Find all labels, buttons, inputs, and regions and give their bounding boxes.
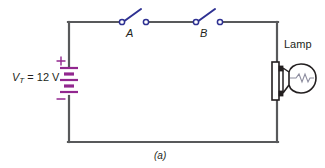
switch-b-blade bbox=[197, 9, 215, 22]
lamp-neck-lower bbox=[283, 85, 289, 93]
switch-a-terminal-left bbox=[119, 19, 124, 24]
switch-a-blade bbox=[123, 9, 141, 22]
lamp-symbol bbox=[272, 62, 316, 100]
lamp-bracket bbox=[272, 62, 279, 100]
switch-b-terminal-right bbox=[217, 19, 222, 24]
figure-caption: (a) bbox=[154, 151, 166, 161]
source-voltage-value: = 12 V bbox=[24, 71, 59, 83]
switch-b-label: B bbox=[200, 28, 207, 39]
lamp-label: Lamp bbox=[284, 39, 312, 50]
battery-symbol bbox=[60, 68, 78, 92]
circuit-wires bbox=[68, 22, 278, 142]
circuit-figure: A B Lamp VT = 12 V (a) bbox=[0, 0, 325, 168]
switch-a-label: A bbox=[126, 28, 133, 39]
switch-a[interactable] bbox=[119, 9, 148, 25]
switch-b-terminal-left bbox=[193, 19, 198, 24]
lamp-neck-upper bbox=[283, 68, 289, 72]
source-voltage-label: VT = 12 V bbox=[12, 72, 59, 85]
switch-a-terminal-right bbox=[143, 19, 148, 24]
switch-b[interactable] bbox=[193, 9, 222, 25]
